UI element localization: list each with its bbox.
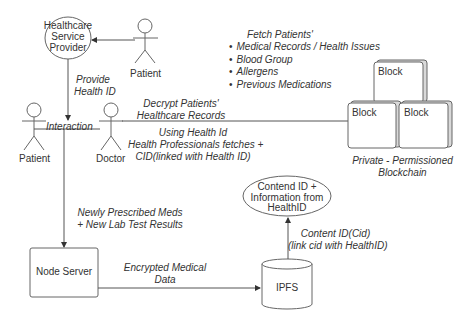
content-id-label: Content ID(Cid) (link cid with HealthID) (288, 228, 383, 252)
using-health-id-label: Using Health Id Health Professionals fet… (128, 127, 258, 163)
encrypted-label: Encrypted Medical Data (120, 262, 210, 286)
fetch-item: Medical Records / Health Issues (229, 41, 380, 54)
newly-prescribed-label: Newly Prescribed Meds + New Lab Test Res… (70, 207, 190, 231)
fetch-title: Fetch Patients' (230, 29, 330, 41)
block-right-label: Block (404, 107, 428, 119)
block-top-label: Block (378, 66, 402, 78)
node-server-label: Node Server (30, 266, 98, 278)
decrypt-label: Decrypt Patients' Healthcare Records (136, 98, 226, 122)
fetch-item: Allergens (229, 66, 380, 79)
fetch-list: Medical Records / Health Issues Blood Gr… (229, 41, 380, 91)
provide-health-id-label: Provide Health ID (74, 74, 116, 98)
content-ellipse-label: Contend ID + Information from HealthID (243, 182, 331, 214)
doctor-label: Doctor (96, 153, 125, 165)
blockchain-caption: Private - Permissioned Blockchain (350, 155, 455, 179)
patient-top-actor-icon (133, 19, 158, 63)
patient-top-label: Patient (130, 68, 161, 80)
block-left-label: Block (352, 107, 376, 119)
fetch-item: Blood Group (229, 54, 380, 67)
fetch-item: Previous Medications (229, 79, 380, 92)
patient-left-label: Patient (19, 153, 50, 165)
hsp-label: Healthcare Service Provider (40, 20, 96, 53)
doctor-actor-icon (99, 103, 123, 150)
ipfs-label: IPFS (262, 282, 312, 294)
interaction-label: Interaction (46, 121, 93, 133)
patient-left-actor-icon (22, 103, 46, 150)
